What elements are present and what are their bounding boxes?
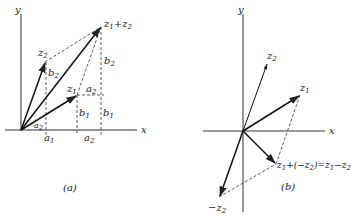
label-b1-right: b1 (103, 107, 114, 120)
dashed-guides-a (45, 27, 104, 135)
vector-addition-diagram: y x z2 z1 z1+z2 b2 b2 a2 a2 b1 b1 a1 a2 … (0, 0, 351, 218)
vector-z1-a (21, 96, 76, 130)
panel-b: y x z2 z1 −z2 z1+(−z2)=z1−z2 (b) (203, 4, 351, 215)
label-neg-z2-b: −z2 (208, 202, 227, 215)
vector-neg-z2-b (220, 131, 243, 196)
y-label-b: y (237, 4, 244, 15)
vector-z2-a (21, 63, 45, 130)
label-z1-plus-z2-a: z1+z2 (103, 18, 132, 31)
vector-z2-b (243, 64, 267, 131)
vector-z1-b (243, 96, 299, 131)
label-a2-axis: a2 (84, 132, 95, 145)
label-z2-a: z2 (37, 47, 48, 60)
y-label-a: y (14, 4, 21, 15)
vector-z1-minus-z2-b (243, 131, 275, 163)
label-b2-right: b2 (104, 55, 115, 68)
label-z1-minus-z2-b: z1+(−z2)=z1−z2 (276, 160, 351, 172)
label-b1-mid: b1 (79, 107, 90, 120)
label-z1-a: z1 (66, 83, 77, 96)
label-a2-top: a2 (86, 83, 97, 96)
caption-a: (a) (63, 182, 77, 193)
caption-b: (b) (281, 181, 295, 192)
label-z2-b: z2 (266, 50, 277, 63)
label-b2-left: b2 (48, 67, 59, 80)
x-label-b: x (329, 125, 335, 136)
x-label-a: x (141, 124, 147, 135)
label-a1-axis: a1 (44, 132, 54, 145)
label-z1-b: z1 (299, 82, 310, 95)
panel-a: y x z2 z1 z1+z2 b2 b2 a2 a2 b1 b1 a1 a2 … (5, 4, 147, 193)
